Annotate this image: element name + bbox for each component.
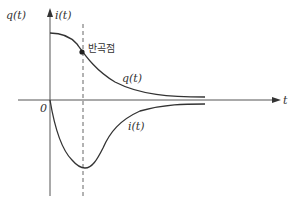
i-curve bbox=[50, 100, 205, 168]
inflection-label: 반곡점 bbox=[88, 43, 115, 54]
inflection-point-marker bbox=[79, 49, 84, 54]
y-axis-label-i: i(t) bbox=[55, 9, 72, 22]
q-curve-label: q(t) bbox=[122, 72, 142, 85]
q-curve bbox=[50, 33, 205, 97]
origin-label: 0 bbox=[40, 102, 47, 115]
i-curve-label: i(t) bbox=[128, 120, 145, 133]
x-axis-arrow-icon bbox=[272, 97, 281, 103]
x-axis-label-t: t bbox=[283, 94, 288, 107]
y-axis-label-q: q(t) bbox=[6, 9, 26, 22]
y-axis-arrow-icon bbox=[47, 8, 53, 17]
charge-current-diagram: q(t) i(t) t 0 반곡점 q(t) i(t) bbox=[0, 0, 299, 210]
